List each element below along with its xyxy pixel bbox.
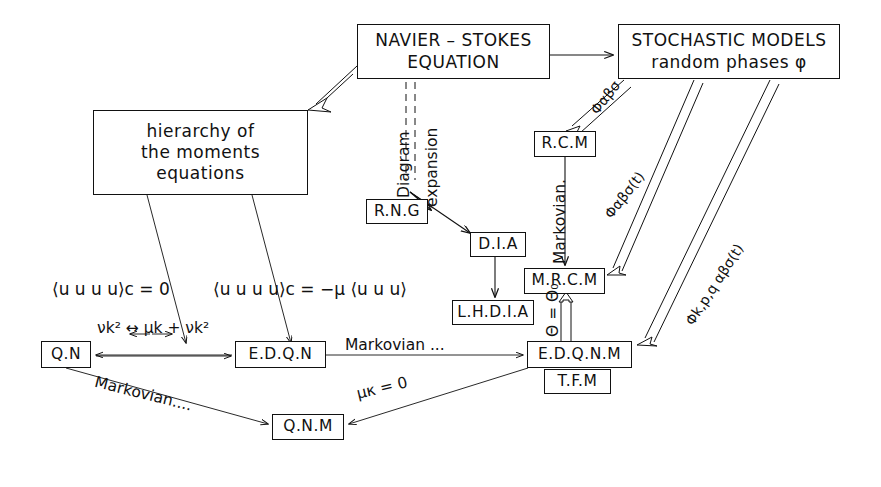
label-cumulant-mu: ⟨u u u u⟩c = −μ ⟨u u u⟩ — [213, 280, 407, 299]
box-qn-label: Q.N — [51, 345, 81, 364]
label-nuk2-muk-nuk2: νk² ↔ μk + νk² — [97, 320, 209, 337]
box-rng[interactable]: R.N.G — [366, 199, 428, 224]
box-rcm[interactable]: R.C.M — [534, 131, 596, 157]
box-rcm-label: R.C.M — [542, 134, 589, 153]
label-expansion-word: expansion — [424, 128, 441, 207]
box-lhdia[interactable]: L.H.D.I.A — [452, 300, 534, 325]
box-hierarchy-line-1: hierarchy of — [147, 121, 255, 142]
box-dia-label: D.I.A — [478, 235, 517, 254]
box-mrcm[interactable]: M.R.C.M — [524, 268, 605, 294]
label-markovian-middle: Markovian ... — [345, 337, 445, 354]
box-navier-stokes[interactable]: NAVIER – STOKES EQUATION — [357, 24, 550, 79]
label-markovian-vertical: Markovian. — [552, 179, 569, 264]
box-stochastic-models-line-1: STOCHASTIC MODELS — [632, 30, 827, 51]
box-tfm[interactable]: T.F.M — [544, 369, 611, 394]
box-edqnm[interactable]: E.D.Q.N.M — [527, 341, 632, 368]
box-navier-stokes-line-2: EQUATION — [407, 52, 499, 73]
box-tfm-label: T.F.M — [558, 372, 598, 391]
box-edqnm-label: E.D.Q.N.M — [538, 345, 621, 364]
box-mrcm-label: M.R.C.M — [531, 271, 597, 290]
box-qnm-label: Q.N.M — [283, 417, 333, 436]
box-lhdia-label: L.H.D.I.A — [457, 303, 528, 322]
label-theta-equals-theta-zero: Θ = Θ₀ — [545, 284, 562, 337]
box-edqn[interactable]: E.D.Q.N — [235, 341, 326, 368]
box-edqn-label: E.D.Q.N — [249, 345, 313, 364]
box-hierarchy-line-2: the moments — [141, 142, 260, 163]
box-hierarchy-line-3: equations — [156, 163, 244, 184]
box-qnm[interactable]: Q.N.M — [272, 414, 344, 440]
flowchart-canvas: NAVIER – STOKES EQUATION STOCHASTIC MODE… — [0, 0, 881, 487]
label-cumulant-zero: ⟨u u u u⟩c = 0 — [52, 280, 170, 299]
box-dia[interactable]: D.I.A — [470, 232, 526, 257]
box-stochastic-models[interactable]: STOCHASTIC MODELS random phases φ — [618, 24, 840, 79]
box-hierarchy-moments[interactable]: hierarchy of the moments equations — [93, 110, 308, 195]
box-rng-label: R.N.G — [374, 202, 420, 221]
box-qn[interactable]: Q.N — [41, 341, 91, 368]
box-navier-stokes-line-1: NAVIER – STOKES — [375, 30, 532, 51]
label-diagram-word: Diagram — [396, 131, 413, 198]
box-stochastic-models-line-2: random phases φ — [651, 52, 807, 73]
